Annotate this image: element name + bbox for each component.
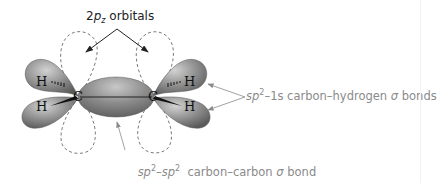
- label-sigma: σ: [391, 89, 398, 103]
- p-orbital-arrows: [86, 29, 148, 52]
- cc-bond-arrow: [117, 122, 125, 150]
- label-sp: sp: [246, 89, 259, 103]
- atom-hydrogen-bottom-left: H: [36, 99, 47, 114]
- label-sp-2: sp: [162, 165, 175, 179]
- label-suffix: orbitals: [105, 9, 154, 23]
- atom-hydrogen-top-left: H: [36, 74, 47, 89]
- label-sp-1: sp: [138, 165, 151, 179]
- label-end: bonds: [398, 89, 437, 103]
- atom-hydrogen-top-right: H: [184, 74, 195, 89]
- label-text: carbon–carbon: [180, 165, 276, 179]
- ethylene-orbital-diagram: H H C C H H 2pz orbitals sp2–1s carbon–h…: [0, 0, 444, 183]
- label-text: –1s carbon–hydrogen: [264, 89, 390, 103]
- label-2pz-orbitals: 2pz orbitals: [86, 9, 154, 23]
- label-end: bond: [284, 165, 317, 179]
- ch-bond-arrows: [208, 84, 245, 110]
- atom-hydrogen-bottom-right: H: [184, 99, 195, 114]
- atom-carbon-right: C: [148, 89, 158, 104]
- ch-sigma-lobes-right: [153, 59, 210, 128]
- label-ch-sigma-bonds: sp2–1s carbon–hydrogen σ bonds: [246, 89, 437, 103]
- label-cc-sigma-bond: sp2–sp2 carbon–carbon σ bond: [123, 151, 316, 183]
- label-sigma: σ: [276, 165, 283, 179]
- atom-carbon-left: C: [73, 89, 83, 104]
- label-prefix: 2: [86, 9, 94, 23]
- ch-sigma-lobes-left: [22, 59, 78, 128]
- edge-divider: [420, 0, 421, 183]
